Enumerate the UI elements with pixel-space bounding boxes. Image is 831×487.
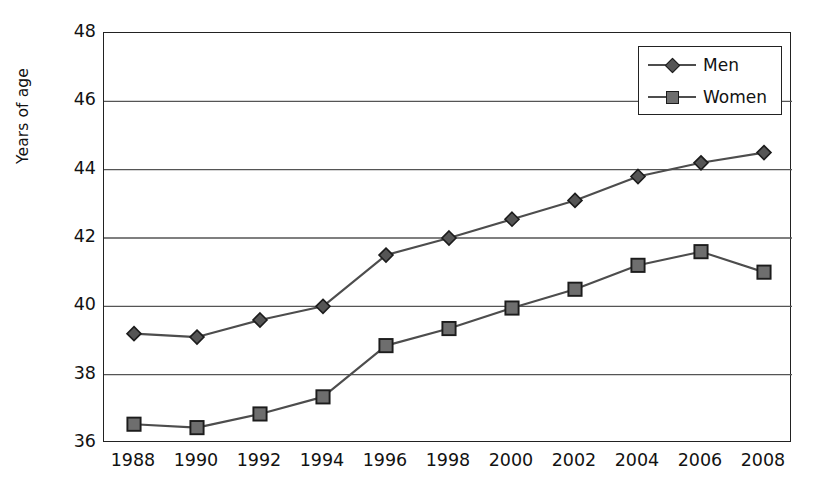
x-axis-tick-2008: 2008 (727, 452, 799, 470)
y-axis-tick-44: 44 (50, 160, 96, 178)
data-point-women-1988 (127, 418, 140, 431)
y-axis-tick-38: 38 (50, 365, 96, 383)
y-axis-tick-40: 40 (50, 296, 96, 314)
x-axis-tick-1998: 1998 (412, 452, 484, 470)
men-diamond-marker-icon (646, 54, 698, 76)
data-point-men-2008 (757, 146, 771, 160)
data-point-men-1988 (127, 327, 141, 341)
x-axis-tick-2004: 2004 (601, 452, 673, 470)
data-point-women-1990 (190, 421, 203, 434)
x-axis-tick-1988: 1988 (97, 452, 169, 470)
x-axis-tick-2006: 2006 (664, 452, 736, 470)
line-chart: Years of age 36384042444648 Men Women 19… (0, 0, 831, 487)
legend-label-men: Men (703, 57, 739, 74)
data-point-men-2000 (505, 212, 519, 226)
legend-entry-men[interactable]: Men (639, 48, 781, 82)
x-axis-tick-1992: 1992 (223, 452, 295, 470)
legend-entry-women[interactable]: Women (639, 80, 781, 114)
data-point-men-1998 (442, 231, 456, 245)
data-point-women-2008 (757, 266, 770, 279)
women-square-marker-icon (646, 86, 698, 108)
data-point-women-2002 (568, 283, 581, 296)
x-axis-tick-1996: 1996 (349, 452, 421, 470)
y-axis-tick-48: 48 (50, 23, 96, 41)
y-axis-tick-46: 46 (50, 91, 96, 109)
data-point-men-2006 (694, 156, 708, 170)
y-axis-title: Years of age (14, 31, 40, 201)
data-point-women-1994 (316, 390, 329, 403)
data-point-men-2002 (568, 193, 582, 207)
legend-label-women: Women (703, 89, 767, 106)
x-axis-tick-2002: 2002 (538, 452, 610, 470)
y-axis-tick-36: 36 (50, 433, 96, 451)
y-axis-tick-labels: 36384042444648 (42, 0, 96, 487)
data-point-men-1990 (190, 330, 204, 344)
data-point-women-1998 (442, 322, 455, 335)
series-line-women (134, 252, 764, 428)
data-point-women-1992 (253, 407, 266, 420)
x-axis-tick-1990: 1990 (160, 452, 232, 470)
y-axis-tick-42: 42 (50, 228, 96, 246)
data-point-women-2004 (631, 259, 644, 272)
legend: Men Women (638, 46, 782, 115)
x-axis-tick-1994: 1994 (286, 452, 358, 470)
data-point-women-2000 (505, 301, 518, 314)
data-point-women-1996 (379, 339, 392, 352)
x-axis-tick-2000: 2000 (475, 452, 547, 470)
data-point-men-1992 (253, 313, 267, 327)
data-point-men-2004 (631, 170, 645, 184)
data-point-women-2006 (694, 245, 707, 258)
